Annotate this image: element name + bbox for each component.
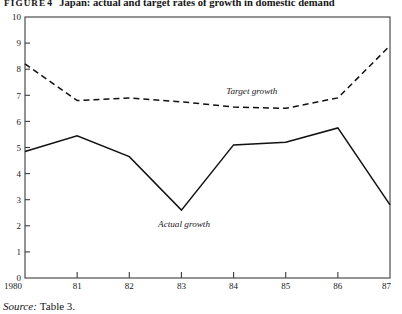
figure-container: FIGURE4Japan: actual and target rates of… <box>0 0 402 314</box>
series-annotation-target-growth: Target growth <box>226 86 278 96</box>
x-axis-label: 81 <box>73 281 82 291</box>
figure-source: Source:Table 3. <box>3 299 75 313</box>
source-word: Source: <box>3 300 37 312</box>
x-axis-label: 1980 <box>4 281 23 291</box>
y-axis-label: 7 <box>17 91 22 101</box>
line-chart-svg: 012345678910198081828384858687Target gro… <box>0 0 402 300</box>
y-axis-label: 1 <box>17 247 22 257</box>
plot-frame <box>25 17 390 278</box>
y-axis-label: 9 <box>17 38 22 48</box>
x-axis-label: 82 <box>125 281 134 291</box>
series-annotation-actual-growth: Actual growth <box>157 219 210 229</box>
y-axis-label: 10 <box>12 12 22 22</box>
series-line-actual-growth <box>25 128 390 210</box>
y-axis-label: 6 <box>17 117 22 127</box>
x-axis-label: 86 <box>333 281 343 291</box>
y-axis-label: 8 <box>17 64 22 74</box>
x-axis-label: 84 <box>229 281 239 291</box>
source-text: Table 3. <box>40 300 75 312</box>
y-axis-label: 4 <box>17 169 22 179</box>
y-axis-label: 3 <box>17 195 22 205</box>
y-axis-label: 5 <box>17 143 22 153</box>
x-axis-label: 83 <box>177 281 187 291</box>
x-axis-label: 87 <box>382 281 392 291</box>
x-axis-label: 85 <box>281 281 291 291</box>
series-line-target-growth <box>25 46 390 109</box>
chart-plot-area: 012345678910198081828384858687Target gro… <box>0 0 402 300</box>
y-axis-label: 2 <box>17 221 22 231</box>
